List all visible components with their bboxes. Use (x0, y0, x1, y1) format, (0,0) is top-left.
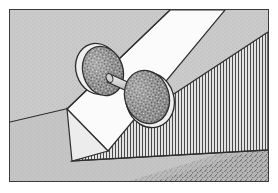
inclined-plane-illustration (10, 10, 268, 181)
illustration-canvas: Dumbbell resting on an inclined plane (0, 0, 278, 193)
figure-frame: Dumbbell resting on an inclined plane (9, 9, 269, 182)
